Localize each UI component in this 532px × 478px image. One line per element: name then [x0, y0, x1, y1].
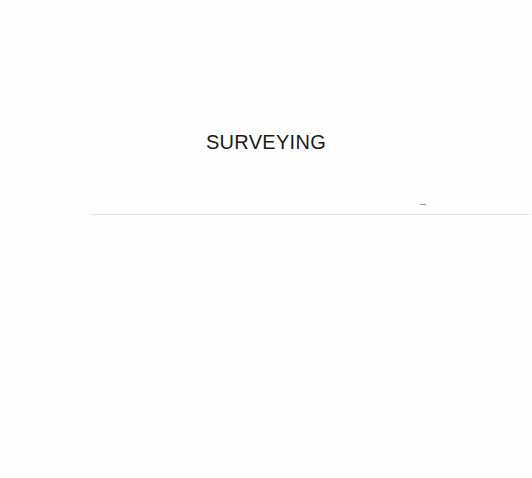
scan-artifact-line [90, 214, 530, 215]
document-page: SURVEYING [0, 0, 532, 478]
scan-artifact-dash [420, 204, 426, 205]
page-title: SURVEYING [0, 131, 532, 154]
